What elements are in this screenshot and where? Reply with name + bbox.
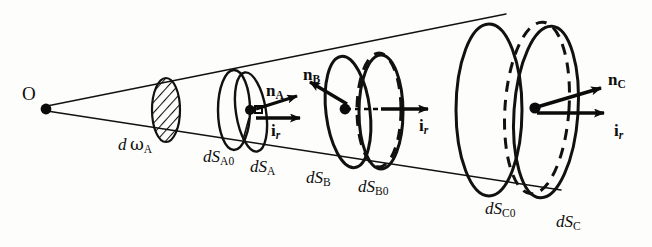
ds-b-sub: B — [323, 176, 331, 188]
ds-b-d: d — [306, 168, 315, 187]
i-r-a-label: ir — [271, 122, 280, 141]
n-a-label: nA — [266, 82, 284, 101]
ds-a-s: S — [259, 157, 268, 176]
d-omega-a-symbol: ω — [130, 134, 144, 154]
n-a-sub: A — [275, 89, 283, 101]
ds-c0-s: S — [494, 199, 503, 218]
ds-c0-sub: C0 — [502, 207, 516, 219]
n-b-vector — [310, 82, 347, 104]
i-r-c-label: ir — [614, 122, 623, 141]
ds-b0-sub: B0 — [375, 185, 389, 197]
ds-b0-label: dSB0 — [358, 178, 389, 197]
ds-c0-ellipse — [456, 24, 522, 196]
ds-b-s: S — [315, 168, 324, 187]
ds-a-label: dSA — [250, 158, 276, 177]
n-b-sub: B — [312, 73, 320, 85]
n-b-label: nB — [303, 66, 320, 85]
ds-a0-label: dSA0 — [203, 148, 234, 167]
section-b-center-dot — [340, 104, 351, 115]
figure-container: O d ωA dSA0 dSA dSB dSB0 dSC0 dSC nA nB … — [0, 0, 652, 247]
ds-b0-s: S — [367, 177, 376, 196]
ds-c-label: dSC — [556, 213, 581, 232]
origin-label: O — [22, 84, 36, 103]
ds-a0-s: S — [212, 147, 221, 166]
section-b-group — [310, 53, 428, 170]
cone-diagram-svg — [0, 0, 652, 247]
i-r-b-label: ir — [419, 117, 428, 136]
ds-c-d: d — [556, 212, 565, 231]
solid-angle-element — [152, 78, 180, 142]
d-omega-a-d: d — [118, 135, 127, 154]
ds-b0-ellipse — [359, 55, 403, 169]
ds-c-sub: C — [573, 220, 581, 232]
d-omega-a-hatched-ellipse — [152, 78, 180, 142]
ds-b0-d: d — [358, 177, 367, 196]
n-c-label: nC — [608, 71, 626, 90]
i-r-c-sub: r — [619, 129, 623, 141]
n-c-sub: C — [617, 78, 625, 90]
section-a-center-dot — [245, 105, 255, 115]
ds-a0-d: d — [203, 147, 212, 166]
i-r-a-sub: r — [276, 129, 280, 141]
section-c-group — [456, 20, 604, 200]
ds-c0-d: d — [485, 199, 494, 218]
ds-a-sub: A — [267, 165, 276, 177]
ds-b-label: dSB — [306, 169, 331, 188]
section-a-group — [218, 70, 300, 154]
d-omega-a-sub: A — [144, 143, 152, 155]
ds-a-d: d — [250, 157, 259, 176]
apex-dot — [41, 104, 52, 115]
i-r-b-sub: r — [424, 124, 428, 136]
ds-c-s: S — [565, 212, 574, 231]
cone-outline — [47, 14, 561, 190]
ds-a0-sub: A0 — [220, 155, 234, 167]
d-omega-a-label: d ωA — [118, 136, 152, 155]
ds-c0-label: dSC0 — [485, 200, 516, 219]
